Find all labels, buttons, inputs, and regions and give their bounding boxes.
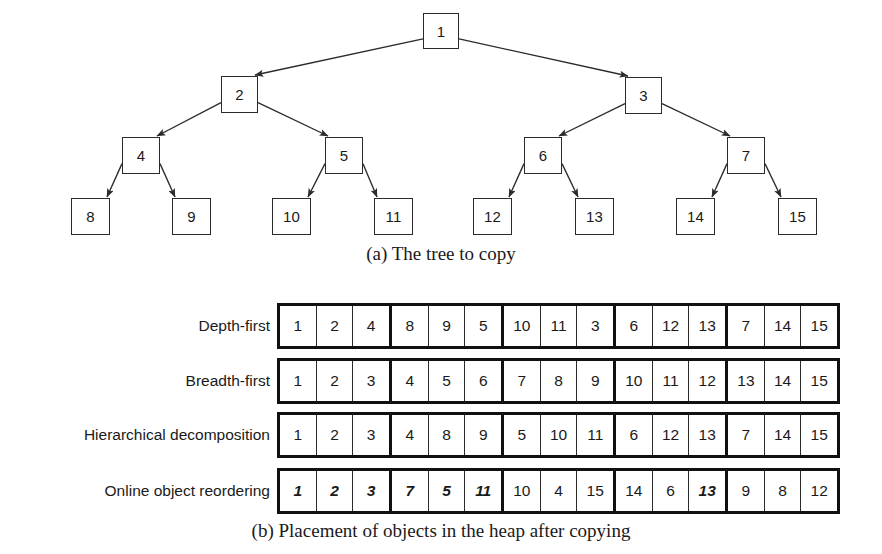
tree-node-label: 1 [437, 23, 446, 40]
heap-cell: 3 [353, 361, 392, 401]
heap-cell: 8 [429, 415, 466, 455]
heap-cell: 2 [317, 471, 354, 511]
tree-node-label: 3 [639, 87, 648, 104]
tree-edge-5-11 [363, 164, 377, 197]
heap-cell: 13 [728, 361, 765, 401]
heap-cell: 9 [577, 361, 616, 401]
tree-edge-6-12 [509, 164, 524, 197]
tree-edge-3-6 [559, 104, 625, 136]
heap-cell: 1 [280, 415, 317, 455]
heap-cell: 12 [653, 306, 690, 346]
tree-node-4: 4 [122, 137, 160, 174]
tree-node-15: 15 [778, 198, 817, 235]
tree-edge-5-10 [308, 164, 325, 197]
tree-node-label: 13 [586, 208, 603, 225]
tree-node-9: 9 [172, 198, 211, 235]
heap-row-cells: 123751110415146139812 [277, 468, 840, 514]
heap-cell: 9 [728, 471, 765, 511]
tree-edge-2-5 [258, 103, 328, 136]
tree-node-11: 11 [374, 198, 413, 235]
heap-cell: 8 [765, 471, 802, 511]
tree-node-12: 12 [473, 198, 512, 235]
heap-cell: 12 [801, 471, 837, 511]
heap-placement-panel: Depth-first124895101136121371415Breadth-… [0, 296, 882, 520]
tree-edge-1-2 [255, 39, 423, 75]
tree-edge-1-3 [459, 39, 628, 76]
heap-cell: 1 [280, 471, 317, 511]
heap-cell: 10 [541, 415, 578, 455]
heap-cell: 10 [504, 306, 541, 346]
heap-cell: 14 [765, 361, 802, 401]
heap-cell: 10 [504, 471, 541, 511]
heap-cell: 6 [653, 471, 690, 511]
heap-cell: 4 [353, 306, 392, 346]
heap-row-label: Online object reordering [105, 468, 270, 514]
heap-row-label: Hierarchical decomposition [84, 412, 270, 458]
heap-row: Online object reordering1237511104151461… [0, 468, 882, 514]
heap-cell: 3 [353, 415, 392, 455]
heap-cell: 4 [392, 361, 429, 401]
tree-node-label: 5 [340, 147, 349, 164]
heap-cell: 7 [504, 361, 541, 401]
heap-cell: 12 [689, 361, 728, 401]
heap-cell: 11 [653, 361, 690, 401]
tree-node-10: 10 [272, 198, 311, 235]
tree-edge-7-15 [765, 164, 781, 197]
heap-row-cells: 123456789101112131415 [277, 358, 840, 404]
heap-cell: 8 [541, 361, 578, 401]
tree-edge-7-14 [712, 164, 727, 197]
heap-cell: 9 [429, 306, 466, 346]
heap-cell: 10 [616, 361, 653, 401]
tree-node-1: 1 [423, 13, 459, 49]
tree-edge-6-13 [562, 164, 578, 197]
tree-node-14: 14 [676, 198, 715, 235]
tree-figure-panel: 123456789101112131415 (a) The tree to co… [0, 0, 882, 288]
heap-row: Hierarchical decomposition12348951011612… [0, 412, 882, 458]
heap-cell: 14 [765, 415, 802, 455]
heap-cell: 15 [801, 361, 837, 401]
heap-row: Depth-first124895101136121371415 [0, 303, 882, 349]
tree-node-label: 15 [789, 208, 806, 225]
tree-node-2: 2 [221, 76, 258, 113]
heap-row-label: Depth-first [199, 303, 271, 349]
heap-cell: 7 [392, 471, 429, 511]
tree-node-7: 7 [727, 137, 765, 174]
heap-cell: 3 [577, 306, 616, 346]
heap-cell: 12 [653, 415, 690, 455]
heap-cell: 15 [801, 306, 837, 346]
heap-cell: 9 [465, 415, 504, 455]
heap-cell: 2 [317, 361, 354, 401]
tree-node-label: 8 [86, 208, 95, 225]
tree-edge-4-9 [160, 164, 175, 197]
tree-node-label: 2 [235, 86, 244, 103]
heap-cell: 5 [429, 471, 466, 511]
heap-cell: 3 [353, 471, 392, 511]
tree-node-3: 3 [625, 77, 662, 114]
tree-node-label: 12 [484, 208, 501, 225]
heap-cell: 15 [801, 415, 837, 455]
heap-row-cells: 123489510116121371415 [277, 412, 840, 458]
heap-row: Breadth-first123456789101112131415 [0, 358, 882, 404]
heap-cell: 1 [280, 361, 317, 401]
heap-cell: 2 [317, 306, 354, 346]
tree-node-label: 14 [687, 208, 704, 225]
heap-cell: 5 [504, 415, 541, 455]
heap-cell: 6 [616, 415, 653, 455]
figure-caption-b: (b) Placement of objects in the heap aft… [0, 520, 882, 542]
tree-node-13: 13 [575, 198, 614, 235]
heap-cell: 5 [429, 361, 466, 401]
tree-node-5: 5 [325, 137, 363, 174]
heap-row-cells: 124895101136121371415 [277, 303, 840, 349]
heap-row-label: Breadth-first [186, 358, 270, 404]
heap-cell: 13 [689, 306, 728, 346]
heap-cell: 7 [728, 306, 765, 346]
tree-edge-2-4 [157, 103, 221, 136]
tree-node-8: 8 [71, 198, 110, 235]
heap-cell: 1 [280, 306, 317, 346]
tree-node-label: 9 [187, 208, 196, 225]
heap-cell: 13 [689, 471, 728, 511]
heap-cell: 11 [465, 471, 504, 511]
tree-node-label: 6 [539, 147, 548, 164]
tree-node-label: 4 [137, 147, 146, 164]
tree-node-label: 11 [386, 208, 402, 225]
